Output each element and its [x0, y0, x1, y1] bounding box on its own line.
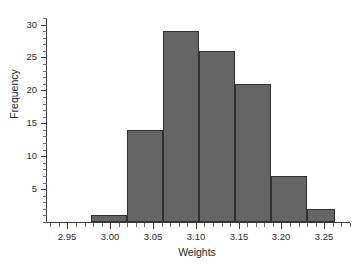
x-axis-minor-tick: [179, 223, 180, 227]
x-axis-minor-tick: [204, 223, 205, 227]
x-axis-minor-tick: [256, 223, 257, 227]
y-axis-minor-tick: [43, 209, 47, 210]
x-axis-minor-tick: [333, 223, 334, 227]
x-axis-tick: [324, 223, 325, 229]
x-axis-minor-tick: [290, 223, 291, 227]
x-axis-minor-tick: [93, 223, 94, 227]
x-axis-minor-tick: [213, 223, 214, 227]
y-axis-tick: [41, 25, 47, 26]
x-axis-tick-label: 3.05: [133, 231, 173, 242]
x-axis-minor-tick: [144, 223, 145, 227]
x-axis-minor-tick: [316, 223, 317, 227]
x-axis-tick-label: 3.20: [261, 231, 301, 242]
y-axis-tick-label: 5: [11, 184, 37, 193]
histogram-bar: [91, 215, 127, 222]
x-axis-minor-tick: [299, 223, 300, 227]
y-axis-minor-tick: [43, 38, 47, 39]
x-axis-minor-tick: [230, 223, 231, 227]
y-axis-minor-tick: [43, 64, 47, 65]
y-axis-minor-tick: [43, 183, 47, 184]
histogram-bar: [163, 31, 199, 222]
x-axis-tick: [153, 223, 154, 229]
x-axis-minor-tick: [50, 223, 51, 227]
histogram-bar: [127, 130, 163, 222]
x-axis-minor-tick: [222, 223, 223, 227]
y-axis-minor-tick: [43, 130, 47, 131]
x-axis-tick-label: 3.10: [176, 231, 216, 242]
y-axis-minor-tick: [43, 18, 47, 19]
y-axis-minor-tick: [43, 215, 47, 216]
x-axis-tick: [281, 223, 282, 229]
y-axis-tick: [41, 90, 47, 91]
x-axis-minor-tick: [102, 223, 103, 227]
y-axis-minor-tick: [43, 196, 47, 197]
histogram-bar: [307, 209, 334, 222]
x-axis-minor-tick: [136, 223, 137, 227]
y-axis-tick-label: 10: [11, 151, 37, 160]
x-axis-minor-tick: [247, 223, 248, 227]
histogram-bar: [271, 176, 307, 222]
y-axis-minor-tick: [43, 117, 47, 118]
y-axis-minor-tick: [43, 51, 47, 52]
x-axis-title: Weights: [47, 246, 347, 258]
y-axis-minor-tick: [43, 84, 47, 85]
y-axis-minor-tick: [43, 31, 47, 32]
x-axis-minor-tick: [85, 223, 86, 227]
x-axis-tick-label: 2.95: [47, 231, 87, 242]
y-axis-minor-tick: [43, 104, 47, 105]
x-axis-tick-label: 3.15: [219, 231, 259, 242]
y-axis-tick-label: 30: [11, 20, 37, 29]
y-axis-minor-tick: [43, 97, 47, 98]
histogram-bar: [199, 51, 235, 222]
x-axis-tick: [67, 223, 68, 229]
plot-area: [47, 18, 347, 222]
x-axis-tick: [110, 223, 111, 229]
y-axis-minor-tick: [43, 202, 47, 203]
x-axis-minor-tick: [187, 223, 188, 227]
x-axis-minor-tick: [162, 223, 163, 227]
y-axis-minor-tick: [43, 143, 47, 144]
y-axis-minor-tick: [43, 77, 47, 78]
x-axis-tick: [196, 223, 197, 229]
x-axis-minor-tick: [341, 223, 342, 227]
y-axis-title: Frequency: [8, 44, 20, 144]
y-axis-minor-tick: [43, 44, 47, 45]
x-axis-minor-tick: [273, 223, 274, 227]
y-axis-minor-tick: [43, 71, 47, 72]
x-axis-minor-tick: [170, 223, 171, 227]
x-axis-tick-label: 3.25: [304, 231, 344, 242]
y-axis-minor-tick: [43, 169, 47, 170]
y-axis-minor-tick: [43, 136, 47, 137]
y-axis-minor-tick: [43, 150, 47, 151]
x-axis-minor-tick: [59, 223, 60, 227]
x-axis-minor-tick: [307, 223, 308, 227]
y-axis-tick: [41, 189, 47, 190]
x-axis-minor-tick: [119, 223, 120, 227]
y-axis-minor-tick: [43, 110, 47, 111]
x-axis-tick: [239, 223, 240, 229]
x-axis-minor-tick: [350, 223, 351, 227]
x-axis-line: [46, 222, 350, 223]
y-axis-minor-tick: [43, 176, 47, 177]
x-axis-minor-tick: [127, 223, 128, 227]
y-axis-minor-tick: [43, 222, 47, 223]
y-axis-tick: [41, 123, 47, 124]
y-axis-tick: [41, 57, 47, 58]
x-axis-minor-tick: [264, 223, 265, 227]
histogram-figure: 51015202530 2.953.003.053.103.153.203.25…: [0, 0, 362, 273]
y-axis-minor-tick: [43, 163, 47, 164]
histogram-bar: [235, 84, 271, 222]
x-axis-minor-tick: [76, 223, 77, 227]
x-axis-tick-label: 3.00: [90, 231, 130, 242]
y-axis-tick: [41, 156, 47, 157]
